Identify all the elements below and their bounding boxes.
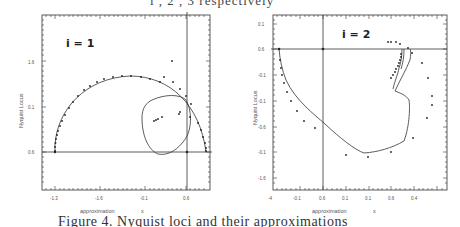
plot-right-ytick: -0.1 (258, 73, 266, 78)
plot-right-ytick: -0.1 (258, 150, 266, 155)
plot-right-markers (278, 41, 433, 158)
plot-right-xtick: 0.4 (411, 196, 418, 201)
plot-left-ytick: 0.1 (28, 105, 35, 110)
plot-left-xtick: -1.3 (50, 196, 58, 201)
plot-right-locus-inner-branch (393, 49, 402, 89)
plot-left-ylabel: Nyquist Locus (18, 93, 24, 128)
plot-right-ytick: 0.6 (258, 47, 265, 52)
plot-right-ytick: -0.1 (258, 99, 266, 104)
plot-right-xtick: -0.1 (293, 196, 301, 201)
plot-left-xtick: 0.6 (183, 196, 190, 201)
figure-canvas: i = 1 1.6 0.1 0.6 -1.3 -1.6 -0.1 0.6 app… (0, 0, 460, 227)
plot-left-nyquist-semicircle (55, 76, 206, 152)
plot-right-xtick: 0.6 (388, 196, 395, 201)
plot-right-ytick: -1.6 (258, 176, 266, 181)
plot-right (271, 15, 447, 190)
plot-left-text: i = 1 1.6 0.1 0.6 -1.3 -1.6 -0.1 0.6 app… (18, 37, 190, 214)
plot-right-xtick: 0.6 (319, 196, 326, 201)
plot-right-xtick: 0.1 (342, 196, 349, 201)
plot-right-nyquist-locus (279, 49, 411, 153)
plot-left-approximation-loop (142, 96, 191, 155)
plot-left-ytick: 0.6 (28, 150, 35, 155)
plot-right-ticks (273, 15, 447, 190)
plot-left-xtick: -0.1 (140, 196, 148, 201)
figure-caption: Figure 4. Nyquist loci and their approxi… (58, 214, 348, 227)
plot-right-xvar: x (373, 208, 376, 214)
plot-left-markers (54, 60, 207, 153)
plot-right-frame (273, 15, 447, 190)
plot-right-ytick: 0.1 (258, 22, 265, 27)
plot-right-ylabel: Nyquist Locus (252, 90, 258, 125)
plot-left-ytick: 1.6 (28, 60, 35, 65)
plot-right-xtick: -4 (268, 196, 272, 201)
plot-right-text: i = 2 0.1 0.6 -0.1 -0.1 -0.6 -0.1 -1.6 -… (252, 22, 418, 214)
plot-right-panel-label: i = 2 (342, 28, 370, 41)
plot-left-panel-label: i = 1 (66, 37, 94, 50)
plot-right-xtick: 0.1 (365, 196, 372, 201)
plot-left-xtick: -1.6 (95, 196, 103, 201)
plot-right-ytick: -0.6 (258, 125, 266, 130)
